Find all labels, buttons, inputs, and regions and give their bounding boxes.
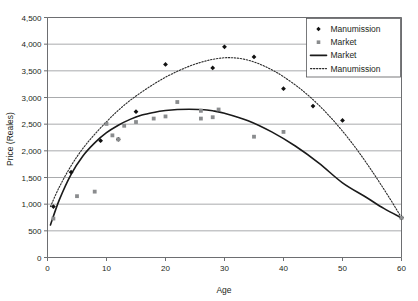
- y-tick-label: 4,500: [21, 14, 42, 23]
- x-axis-tick-labels: 0102030405060: [45, 264, 406, 273]
- data-point-market: [111, 133, 115, 137]
- data-point-market: [199, 109, 203, 113]
- x-axis-title: Age: [216, 285, 231, 295]
- data-point-market: [134, 120, 138, 124]
- x-tick-label: 30: [220, 264, 229, 273]
- chart-legend[interactable]: ManumissionMarketMarketManumission: [307, 19, 401, 78]
- data-point-manumission: [252, 55, 257, 60]
- x-tick-label: 0: [45, 264, 50, 273]
- data-point-market: [116, 137, 120, 141]
- data-point-manumission: [51, 204, 56, 209]
- y-axis-title: Price (Reales): [5, 112, 15, 166]
- data-point-manumission: [134, 109, 139, 114]
- legend-label: Market: [331, 50, 358, 60]
- data-point-manumission: [340, 118, 345, 123]
- data-point-market: [93, 190, 97, 194]
- data-point-manumission: [210, 66, 215, 71]
- y-tick-label: 4,000: [21, 40, 42, 49]
- y-tick-label: 1,500: [21, 174, 42, 183]
- x-tick-label: 20: [161, 264, 170, 273]
- data-point-manumission: [163, 62, 168, 67]
- data-point-manumission: [222, 44, 227, 49]
- x-axis-ticks: [48, 258, 402, 262]
- data-point-market: [282, 130, 286, 134]
- data-point-market: [252, 135, 256, 139]
- y-tick-label: 1,000: [21, 200, 42, 209]
- data-point-market: [400, 216, 404, 220]
- fit-line-market-solid: [50, 109, 401, 225]
- price-by-age-scatter-chart: 05001,0001,5002,0002,5003,0003,5004,0004…: [0, 0, 418, 301]
- data-point-market: [75, 194, 79, 198]
- y-tick-label: 0: [37, 254, 42, 263]
- legend-marker-square-icon: [317, 40, 321, 44]
- y-tick-label: 500: [28, 227, 42, 236]
- data-point-market: [105, 122, 109, 126]
- data-point-market: [217, 108, 221, 112]
- fit-line-manumission-dotted: [50, 58, 401, 218]
- y-tick-label: 2,500: [21, 120, 42, 129]
- data-point-market: [175, 100, 179, 104]
- x-tick-label: 50: [338, 264, 347, 273]
- data-point-manumission: [281, 86, 286, 91]
- y-tick-label: 2,000: [21, 147, 42, 156]
- data-point-market: [211, 115, 215, 119]
- x-tick-label: 10: [102, 264, 111, 273]
- fit-lines-group: [50, 58, 401, 225]
- legend-label: Market: [331, 37, 358, 47]
- data-point-market: [152, 117, 156, 121]
- data-point-manumission: [311, 104, 316, 109]
- data-point-market: [52, 217, 56, 221]
- data-point-market: [199, 117, 203, 121]
- data-point-market: [164, 115, 168, 119]
- x-tick-label: 40: [279, 264, 288, 273]
- legend-label: Manumission: [331, 24, 381, 34]
- y-tick-label: 3,000: [21, 94, 42, 103]
- legend-label: Manumission: [331, 64, 381, 74]
- x-tick-label: 60: [397, 264, 406, 273]
- y-axis-ticks: [44, 18, 48, 258]
- y-tick-label: 3,500: [21, 67, 42, 76]
- data-point-market: [122, 124, 126, 128]
- y-axis-tick-labels: 05001,0001,5002,0002,5003,0003,5004,0004…: [21, 14, 42, 263]
- chart-container: 05001,0001,5002,0002,5003,0003,5004,0004…: [0, 0, 418, 301]
